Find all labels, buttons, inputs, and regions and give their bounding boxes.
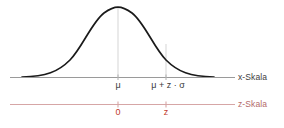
z-tick-label-zero: 0 [115, 107, 120, 117]
x-tick-label-mu-plus-z-sigma: μ + z · σ [151, 80, 185, 90]
x-axis-label: x-Skala [238, 72, 267, 82]
z-axis-label: z-Skala [238, 99, 267, 109]
x-tick-label-mu: μ [115, 80, 120, 90]
z-tick-label-z: z [164, 107, 169, 117]
normal-distribution-diagram: x-Skala z-Skala μ μ + z · σ 0 z [0, 0, 284, 128]
